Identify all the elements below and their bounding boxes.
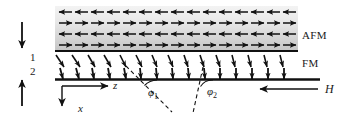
fm-spin-row-1 [56,55,283,67]
x-axis-label: x [78,103,83,114]
phi-2-subscript: 2 [213,91,217,100]
afm-fm-spin-diagram: AFM FM H 1 2 z x φ1 φ2 [0,0,344,120]
fm-layer-label: FM [302,58,319,69]
afm-layer-label: AFM [302,30,327,41]
phi-2-label: φ2 [207,86,217,100]
phi-1-label: φ1 [148,87,158,101]
layer-index-2-label: 2 [30,66,36,77]
diagram-canvas [0,0,344,120]
z-axis-label: z [113,80,117,91]
layer-index-1-label: 1 [30,52,36,63]
field-label-H: H [325,83,334,95]
coordinate-axes [62,86,108,106]
fm-spin-row-2 [60,68,284,79]
phi-1-subscript: 1 [154,92,158,101]
